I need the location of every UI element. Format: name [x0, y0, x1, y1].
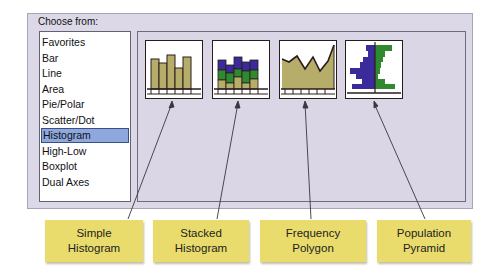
callout-simple-histogram: Simple Histogram [45, 220, 143, 262]
frequency-polygon-thumbnail[interactable] [279, 40, 337, 99]
simple-histogram-icon [146, 41, 202, 97]
stacked-histogram-icon [213, 41, 269, 97]
list-item-scatter-dot[interactable]: Scatter/Dot [41, 113, 129, 128]
list-item-histogram[interactable]: Histogram [41, 128, 129, 143]
callout-frequency-polygon: Frequency Polygon [260, 220, 366, 262]
simple-histogram-thumbnail[interactable] [145, 40, 203, 99]
list-item-area[interactable]: Area [41, 82, 129, 97]
frequency-polygon-icon [280, 41, 336, 97]
stacked-histogram-thumbnail[interactable] [212, 40, 270, 99]
list-item-favorites[interactable]: Favorites [41, 35, 129, 50]
callout-stacked-histogram: Stacked Histogram [153, 220, 249, 262]
callout-population-pyramid: Population Pyramid [377, 220, 471, 262]
population-pyramid-thumbnail[interactable] [345, 40, 403, 99]
list-item-line[interactable]: Line [41, 66, 129, 81]
population-pyramid-icon [346, 41, 402, 97]
list-item-high-low[interactable]: High-Low [41, 144, 129, 159]
list-item-dual-axes[interactable]: Dual Axes [41, 175, 129, 190]
chart-type-list[interactable]: Favorites Bar Line Area Pie/Polar Scatte… [39, 31, 131, 202]
list-item-pie-polar[interactable]: Pie/Polar [41, 97, 129, 112]
list-item-bar[interactable]: Bar [41, 51, 129, 66]
choose-from-label: Choose from: [38, 16, 98, 27]
list-item-boxplot[interactable]: Boxplot [41, 159, 129, 174]
